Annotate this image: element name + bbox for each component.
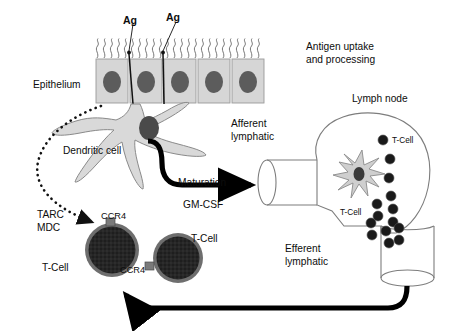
label-and-processing: and processing xyxy=(306,54,375,66)
label-afferent: Afferent xyxy=(231,118,267,130)
diagram-canvas: Ag Ag Epithelium Antigen uptake and proc… xyxy=(0,0,454,331)
label-efferent-line2: lymphatic xyxy=(285,256,328,268)
label-tcell-right: T-Cell xyxy=(191,233,218,245)
label-gm-csf: GM-CSF xyxy=(183,199,223,211)
label-ag-left: Ag xyxy=(123,14,137,26)
label-antigen-uptake: Antigen uptake xyxy=(306,41,374,53)
cilia-row xyxy=(96,39,259,59)
afferent-lymphatic-vessel xyxy=(258,160,317,205)
label-lymph-node: Lymph node xyxy=(352,93,408,105)
diagram-graphics xyxy=(0,0,454,331)
label-afferent-line2: lymphatic xyxy=(231,131,274,143)
label-ccr4-bottom: CCR4 xyxy=(120,265,145,276)
dendritic-cell-node xyxy=(333,150,385,198)
label-ccr4-top: CCR4 xyxy=(101,211,126,222)
label-maturation: Maturation xyxy=(178,177,226,189)
node-tcells xyxy=(366,135,404,248)
label-tcell-left: T-Cell xyxy=(42,262,69,274)
epithelium-layer xyxy=(96,39,264,104)
label-tcell-node-bottom: T-Cell xyxy=(340,208,361,218)
label-efferent: Efferent xyxy=(285,243,321,255)
label-epithelium: Epithelium xyxy=(33,79,81,91)
label-tcell-node-top: T-Cell xyxy=(392,136,413,146)
label-ag-right: Ag xyxy=(166,11,180,23)
return-arrow xyxy=(126,286,407,308)
label-mdc: MDC xyxy=(37,222,60,234)
epithelial-cells xyxy=(96,59,264,103)
label-tarc: TARC xyxy=(37,209,64,221)
label-dendritic-cell: Dendritic cell xyxy=(63,145,121,157)
